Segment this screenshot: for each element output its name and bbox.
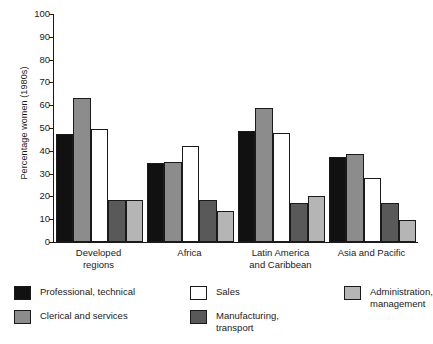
bar-group-3-series-0 [329,157,346,243]
legend-swatch-icon [190,310,207,324]
bar-group-0-series-3 [108,200,125,242]
bar-group-1-series-2 [182,146,199,242]
legend-swatch-icon [190,286,207,300]
legend-label: Administration, management [370,286,433,309]
x-axis-label-2: Latin America and Caribbean [235,247,326,270]
x-axis-line [53,242,418,243]
y-tick-label: 80 [39,54,50,65]
bar-group-3-series-4 [399,220,416,242]
bar-group-3-series-2 [364,178,381,242]
y-tick-label: 100 [34,8,50,19]
bar-group-0-series-4 [126,200,143,242]
legend-item-3[interactable]: Manufacturing, transport [190,310,279,333]
chart-legend: Professional, technicalClerical and serv… [14,286,414,342]
bar-group-1-series-0 [147,163,164,242]
x-axis-category-labels: Developed regionsAfricaLatin America and… [53,247,418,279]
bar-group-3-series-3 [381,203,398,242]
bar-group-0-series-2 [91,129,108,242]
x-axis-label-3: Asia and Pacific [326,247,417,259]
plot-area: 1009080706050403020100 [53,14,418,243]
legend-label: Clerical and services [40,310,128,322]
legend-swatch-icon [344,286,361,300]
legend-label: Manufacturing, transport [216,310,279,333]
y-tick-label: 30 [39,168,50,179]
bar-group-1-series-1 [164,162,181,242]
bar-group-2-series-0 [238,131,255,242]
bar-group-1-series-4 [217,211,234,242]
bar-group-2-series-1 [255,108,272,242]
bar-group-0-series-1 [73,98,90,242]
bar-group-3-series-1 [346,154,363,242]
y-tick-label: 90 [39,31,50,42]
legend-label: Professional, technical [40,286,135,298]
y-tick-label: 60 [39,99,50,110]
bar-group-1-series-3 [199,200,216,242]
legend-swatch-icon [14,286,31,300]
bars-layer [54,14,418,242]
y-tick-label: 50 [39,122,50,133]
legend-item-0[interactable]: Professional, technical [14,286,135,300]
x-axis-label-1: Africa [144,247,235,259]
y-tick-label: 20 [39,190,50,201]
legend-swatch-icon [14,310,31,324]
y-tick-label: 40 [39,145,50,156]
bar-group-2-series-4 [308,196,325,242]
legend-item-1[interactable]: Clerical and services [14,310,128,324]
x-axis-label-0: Developed regions [53,247,144,270]
y-tick-label: 10 [39,213,50,224]
legend-label: Sales [216,286,240,298]
bar-group-0-series-0 [56,134,73,242]
legend-item-4[interactable]: Administration, management [344,286,433,309]
y-tick-label: 70 [39,76,50,87]
y-tick-label: 0 [45,236,50,247]
legend-item-2[interactable]: Sales [190,286,240,300]
bar-group-2-series-3 [290,203,307,242]
bar-group-2-series-2 [273,133,290,242]
y-axis-title: Percentage women (1980s) [19,33,29,213]
